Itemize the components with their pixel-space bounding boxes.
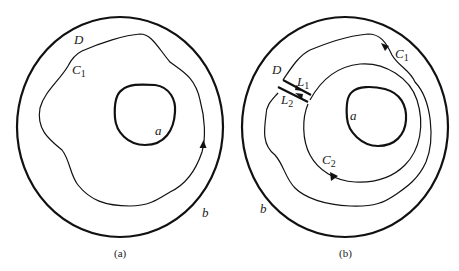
label-line-l1: L1 (296, 74, 309, 91)
label-region-d: D (271, 62, 282, 77)
outer-boundary-curve (17, 17, 223, 237)
panel-b: D L1 L2 C1 C2 a b (b) (242, 17, 448, 260)
label-contour-c1: C1 (72, 62, 86, 79)
contour-c2-arrow-icon (330, 172, 338, 181)
contour-c1-arrow-icon (200, 140, 207, 148)
panel-a: D C1 a b (a) (17, 17, 223, 260)
label-outer-boundary-b: b (260, 201, 267, 216)
label-outer-boundary-b: b (202, 205, 209, 220)
outer-boundary-curve (242, 17, 448, 237)
caption-b: (b) (339, 247, 352, 260)
diagram-canvas: D C1 a b (a) D L1 L2 C1 (0, 0, 459, 271)
caption-a: (a) (114, 247, 127, 260)
label-contour-c1: C1 (395, 46, 409, 63)
figure: D C1 a b (a) D L1 L2 C1 (0, 0, 459, 271)
contour-c1 (39, 34, 204, 206)
inner-boundary-curve (115, 85, 175, 145)
label-inner-boundary-a: a (155, 123, 162, 138)
contour-c1-arrow-icon (381, 43, 389, 51)
label-inner-boundary-a: a (350, 108, 357, 123)
label-region-d: D (73, 32, 84, 47)
label-contour-c2: C2 (322, 152, 336, 169)
